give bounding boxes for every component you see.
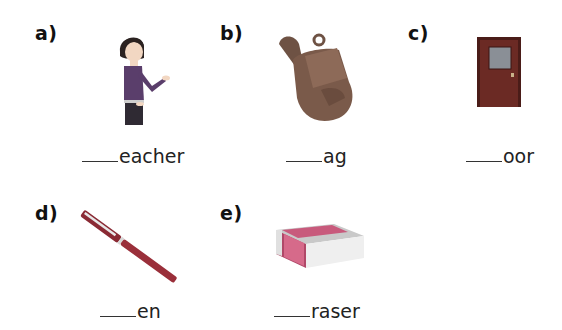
item-c-suffix: oor	[503, 145, 534, 167]
item-c-blank[interactable]	[466, 160, 502, 162]
item-d-label: d)	[35, 202, 58, 224]
item-d-word: en	[100, 300, 161, 322]
item-a-blank[interactable]	[82, 160, 118, 162]
item-a-word: eacher	[82, 145, 184, 167]
item-e-blank[interactable]	[274, 315, 310, 317]
item-b-blank[interactable]	[286, 160, 322, 162]
item-c-label: c)	[408, 22, 429, 44]
item-c-word: oor	[466, 145, 534, 167]
item-b-label: b)	[220, 22, 243, 44]
eraser-picture-icon	[274, 220, 366, 270]
door-picture-icon	[477, 37, 521, 107]
item-e-word: raser	[274, 300, 360, 322]
item-d-blank[interactable]	[100, 315, 136, 317]
item-b-word: ag	[286, 145, 347, 167]
pen-picture-icon	[80, 210, 180, 285]
teacher-picture-icon	[112, 30, 172, 130]
item-d-suffix: en	[137, 300, 161, 322]
item-b-suffix: ag	[323, 145, 347, 167]
item-e-suffix: raser	[311, 300, 360, 322]
item-a-suffix: eacher	[119, 145, 184, 167]
item-e-label: e)	[220, 202, 243, 224]
item-a-label: a)	[35, 22, 58, 44]
bag-picture-icon	[277, 32, 357, 124]
